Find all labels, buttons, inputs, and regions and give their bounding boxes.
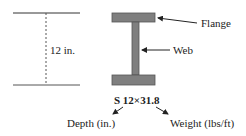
bottom-flange bbox=[112, 75, 155, 85]
web-label: Web bbox=[173, 44, 193, 56]
depth-label: Depth (in.) bbox=[67, 117, 115, 129]
weight-arrow bbox=[156, 107, 168, 114]
top-flange bbox=[112, 13, 155, 22]
flange-arrow bbox=[158, 18, 197, 23]
flange-label: Flange bbox=[201, 17, 231, 29]
web bbox=[132, 22, 139, 75]
depth-arrow bbox=[113, 107, 123, 114]
designation-label: S 12×31.8 bbox=[114, 94, 159, 106]
depth-dimension-label: 12 in. bbox=[50, 44, 75, 56]
weight-label: Weight (lbs/ft) bbox=[170, 117, 234, 129]
